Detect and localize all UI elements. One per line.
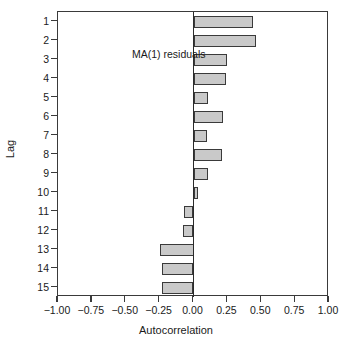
y-tick-label-11: 11: [25, 206, 49, 217]
x-tick-mark: [56, 296, 57, 302]
y-tick-label-5: 5: [25, 92, 49, 103]
x-tick-mark: [124, 296, 125, 302]
y-tick-label-6: 6: [25, 111, 49, 122]
bar-lag-5: [194, 92, 209, 104]
bar-lag-1: [194, 16, 254, 28]
x-tick-mark: [90, 296, 91, 302]
bar-lag-2: [194, 35, 256, 47]
x-tick-mark: [327, 296, 328, 302]
chart-annotation: MA(1) residuals: [132, 48, 206, 60]
bar-lag-9: [194, 168, 209, 180]
x-tick-mark: [260, 296, 261, 302]
bar-lag-13: [160, 244, 194, 256]
y-tick-label-10: 10: [25, 187, 49, 198]
bar-lag-14: [162, 263, 193, 275]
x-tick-mark: [226, 296, 227, 302]
plot-area: MA(1) residuals: [57, 11, 328, 296]
x-tick-mark: [192, 296, 193, 302]
x-axis-title: Autocorrelation: [0, 324, 352, 336]
y-tick-label-4: 4: [25, 73, 49, 84]
bar-lag-6: [194, 111, 224, 123]
bar-lag-4: [194, 73, 227, 85]
y-axis-title: Lag: [4, 127, 16, 171]
y-tick-label-1: 1: [25, 16, 49, 27]
y-tick-label-12: 12: [25, 225, 49, 236]
x-tick-mark: [294, 296, 295, 302]
y-tick-label-9: 9: [25, 168, 49, 179]
y-tick-label-3: 3: [25, 54, 49, 65]
x-tick-mark: [158, 296, 159, 302]
autocorrelation-chart: Lag 123456789101112131415 MA(1) residual…: [0, 0, 352, 344]
y-tick-label-7: 7: [25, 130, 49, 141]
x-tick-label-8: 1.00: [305, 305, 351, 316]
bar-lag-15: [162, 282, 193, 294]
y-tick-label-2: 2: [25, 35, 49, 46]
y-tick-label-8: 8: [25, 149, 49, 160]
y-tick-label-15: 15: [25, 282, 49, 293]
bar-lag-7: [194, 130, 208, 142]
y-tick-label-13: 13: [25, 244, 49, 255]
y-tick-label-14: 14: [25, 263, 49, 274]
bar-lag-8: [194, 149, 222, 161]
